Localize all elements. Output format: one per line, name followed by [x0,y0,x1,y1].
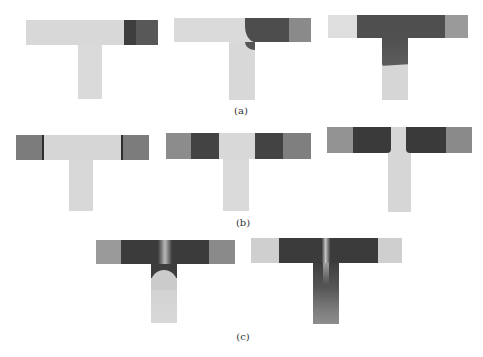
fluid-region-dark [279,238,378,263]
fluid-region-right-medium [209,240,235,264]
panel-label-c: (c) [228,331,258,342]
fluid-region-right-medium [283,133,311,159]
t-junction-c2-main-channel [251,238,402,263]
t-junction-a1-side-channel [78,45,102,99]
t-junction-a2-side-channel [229,42,255,100]
fluid-dome-light [151,270,177,290]
fluid-region-dark [245,18,289,42]
t-junction-b3-side-channel [388,153,411,212]
t-junction-c2-side-channel [313,263,339,324]
fluid-region-medium [445,15,468,38]
t-junction-b2-main-channel [166,133,311,159]
fluid-region-left [16,135,44,160]
light-streak [323,263,329,285]
t-junction-a3-side-channel [382,38,408,100]
fluid-region-left-medium [327,127,353,153]
panel-label-a: (a) [226,105,256,116]
fluid-region-left-dark [191,133,219,159]
fluid-region-dark [121,240,209,264]
fluid-region-dark [357,15,445,38]
fluid-region-right [121,135,149,160]
t-junction-b2-side-channel [223,159,249,211]
fluid-region-right-light [378,238,402,263]
t-junction-b3-main-channel [327,127,472,153]
fluid-region-right-dark [406,127,446,153]
t-junction-c1-main-channel [96,240,235,264]
t-junction-a1-main-channel [26,20,158,45]
fluid-front-dark [124,20,136,45]
t-junction-c1-side-channel [151,264,177,323]
fluid-penetration-dark [382,38,408,66]
fluid-region-medium [289,18,311,42]
fluid-region-right-dark [255,133,283,159]
t-junction-b1-main-channel [16,135,149,160]
t-junction-a2-main-channel [174,18,311,42]
fluid-region-left-medium [166,133,191,159]
fluid-region-right-medium [446,127,472,153]
t-junction-b1-side-channel [69,160,93,211]
fluid-region-left-medium [96,240,121,264]
fluid-region-left-light [251,238,279,263]
panel-label-b: (b) [228,217,258,228]
t-junction-a3-main-channel [328,15,468,38]
fluid-meniscus [245,42,255,50]
fluid-region-left-dark [353,127,391,153]
fluid-region-dark [136,20,158,45]
